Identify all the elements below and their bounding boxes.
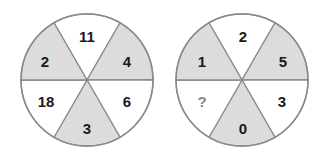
value-top: 11 [79,28,95,45]
value-bottom: 3 [83,120,91,137]
value-bottom-left-question: ? [197,93,206,110]
value-top-right: 5 [279,53,287,70]
value-bottom-right: 6 [123,93,131,110]
value-top-left: 2 [41,53,49,70]
value-top: 2 [239,28,247,45]
value-top-left: 1 [198,53,206,70]
left-wheel: 11 4 6 3 18 2 [21,14,153,146]
value-bottom-right: 3 [278,93,286,110]
value-bottom: 0 [239,120,247,137]
puzzle-diagram: 11 4 6 3 18 2 2 5 3 0 ? 1 [0,0,328,154]
right-wheel: 2 5 3 0 ? 1 [176,14,308,146]
value-bottom-left: 18 [38,93,55,110]
value-top-right: 4 [123,53,132,70]
